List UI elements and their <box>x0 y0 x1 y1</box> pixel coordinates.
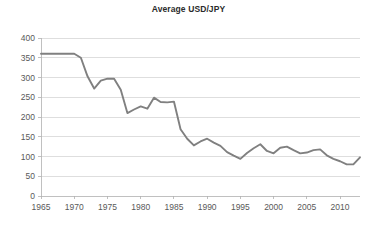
x-tick-label-2010: 2010 <box>331 202 350 212</box>
chart-plot-area: 050100150200250300350400 196519701975198… <box>0 0 377 229</box>
x-tick-label-2000: 2000 <box>264 202 283 212</box>
data-line-series-0 <box>41 54 360 165</box>
y-tick-label-200: 200 <box>21 112 35 122</box>
y-tick-label-400: 400 <box>21 33 35 43</box>
x-tick-labels-group: 1965197019751980198519901995200020052010 <box>32 202 350 212</box>
y-tick-labels-group: 050100150200250300350400 <box>21 33 35 201</box>
gridlines-group <box>41 38 360 176</box>
y-tick-label-50: 50 <box>26 171 36 181</box>
x-tick-label-1990: 1990 <box>198 202 217 212</box>
x-tick-label-1965: 1965 <box>32 202 51 212</box>
x-tick-label-1970: 1970 <box>65 202 84 212</box>
x-tick-label-1980: 1980 <box>131 202 150 212</box>
data-series-group <box>41 54 360 165</box>
x-tick-marks-group <box>41 196 340 199</box>
y-axis-line-group <box>38 38 41 196</box>
y-tick-label-300: 300 <box>21 73 35 83</box>
x-tick-label-1995: 1995 <box>231 202 250 212</box>
x-tick-label-1975: 1975 <box>98 202 117 212</box>
y-tick-label-150: 150 <box>21 132 35 142</box>
x-tick-label-2005: 2005 <box>297 202 316 212</box>
x-tick-label-1985: 1985 <box>164 202 183 212</box>
y-tick-label-100: 100 <box>21 152 35 162</box>
y-tick-label-0: 0 <box>30 191 35 201</box>
chart-container: Average USD/JPY 050100150200250300350400… <box>0 0 377 229</box>
y-tick-label-350: 350 <box>21 53 35 63</box>
y-tick-label-250: 250 <box>21 92 35 102</box>
